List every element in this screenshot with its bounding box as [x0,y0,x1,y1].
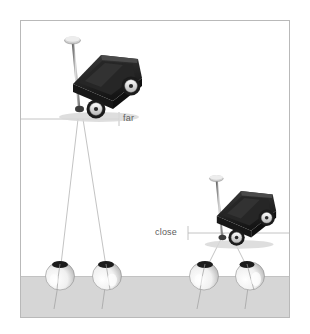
label-far: far [123,114,134,123]
eyeball-close-left-graphic [187,258,221,292]
eyeball-far-left [43,258,77,292]
wagon-far-wheel-front [87,100,106,119]
label-close: close [155,228,177,237]
eyeball-close-left [187,258,221,292]
eyeball-close-right [233,258,267,292]
figure-canvas: far close [0,0,310,334]
wagon-far-wheel-rear [122,77,141,96]
figure-frame: far close [20,20,290,318]
wagon-close-graphic [191,169,281,253]
wagon-close-wheel-rear [259,210,275,226]
eyeball-far-right [90,258,124,292]
wagon-far-handle [65,36,85,112]
eyeball-close-right-graphic [233,258,267,292]
wagon-close [191,155,290,253]
eyeball-far-left-graphic [43,258,77,292]
wagon-close-handle [209,175,226,240]
wagon-close-wheel-front [228,229,244,245]
eyeball-far-right-graphic [90,258,124,292]
